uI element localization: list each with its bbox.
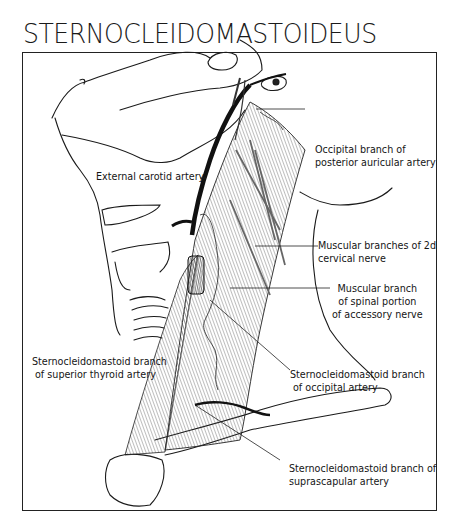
label-line: of superior thyroid artery: [32, 368, 167, 381]
label-line: of occipital artery: [290, 381, 425, 394]
label-line: Sternocleidomastoid branch: [32, 355, 167, 368]
sternum-outline: [106, 454, 165, 506]
label-scm-branch-occipital: Sternocleidomastoid branch of occipital …: [290, 368, 425, 394]
hatched-block: [188, 256, 204, 294]
label-line: Sternocleidomastoid branch of: [289, 462, 436, 475]
label-line: External carotid artery: [96, 170, 204, 183]
label-line: Muscular branches of 2d: [318, 239, 436, 252]
label-line: Sternocleidomastoid branch: [290, 368, 425, 381]
label-external-carotid-artery: External carotid artery: [96, 170, 204, 183]
label-line: Muscular branch: [332, 282, 423, 295]
label-line: cervical nerve: [318, 252, 436, 265]
label-line: Occipital branch of: [315, 143, 436, 156]
label-line: suprascapular artery: [289, 475, 436, 488]
label-scm-branch-suprascapular: Sternocleidomastoid branch of suprascapu…: [289, 462, 436, 488]
label-line: posterior auricular artery: [315, 156, 436, 169]
jaw-outline: [52, 52, 210, 118]
label-scm-branch-superior-thyroid: Sternocleidomastoid branch of superior t…: [32, 355, 167, 381]
label-occipital-branch-posterior-auricular: Occipital branch of posterior auricular …: [315, 143, 436, 169]
ear-outline: [208, 52, 237, 70]
label-muscular-branches-2d-cervical-nerve: Muscular branches of 2d cervical nerve: [318, 239, 436, 265]
label-line: of spinal portion: [332, 295, 423, 308]
label-muscular-branch-spinal-accessory: Muscular branch of spinal portion of acc…: [332, 282, 423, 321]
label-line: of accessory nerve: [332, 308, 423, 321]
